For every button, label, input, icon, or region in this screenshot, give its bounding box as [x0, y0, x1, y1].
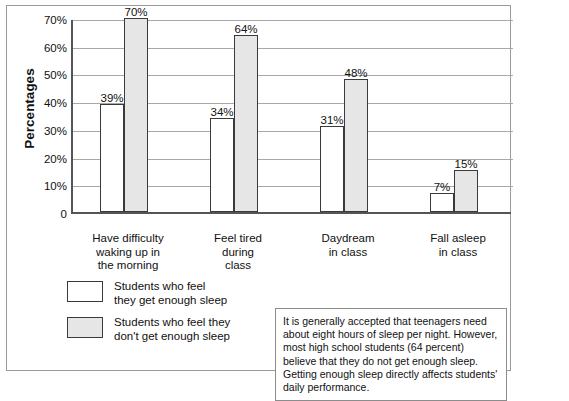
- note-callout-box: It is generally accepted that teenagers …: [275, 308, 507, 401]
- bar-value-label: 64%: [234, 23, 257, 35]
- bar-value-label: 34%: [210, 106, 233, 118]
- y-tick-label: 30%: [44, 125, 67, 137]
- bar: 15%: [454, 170, 478, 212]
- y-tick-label: 60%: [44, 42, 67, 54]
- y-tick-label: 40%: [44, 97, 67, 109]
- bar: 31%: [320, 126, 344, 212]
- legend-label-enough-sleep: Students who feel they get enough sleep: [114, 280, 227, 307]
- legend-swatch-shaded: [67, 317, 103, 338]
- x-category-label: Feel tired during class: [183, 232, 293, 273]
- bar: 64%: [234, 35, 258, 212]
- bar-value-label: 48%: [344, 67, 367, 79]
- legend-label-not-enough-sleep: Students who feel they don't get enough …: [114, 316, 230, 343]
- figure-frame: Percentages 010%20%30%40%50%60%70%39%70%…: [6, 5, 511, 371]
- bar-value-label: 31%: [320, 114, 343, 126]
- plot-area: 010%20%30%40%50%60%70%39%70%Have difficu…: [71, 20, 511, 214]
- legend-swatch-light: [67, 281, 103, 302]
- bar: 34%: [210, 118, 234, 212]
- bar-value-label: 70%: [124, 6, 147, 18]
- legend-item-enough-sleep: Students who feel they get enough sleep: [67, 280, 230, 307]
- y-tick-label: 70%: [44, 14, 67, 26]
- x-category-label: Fall asleep in class: [403, 232, 513, 259]
- bar-value-label: 39%: [100, 92, 123, 104]
- y-tick-label: 0: [61, 208, 67, 220]
- y-tick-label: 10%: [44, 180, 67, 192]
- x-category-label: Have difficulty waking up in the morning: [73, 232, 183, 273]
- bar: 7%: [430, 193, 454, 212]
- legend-item-not-enough-sleep: Students who feel they don't get enough …: [67, 316, 230, 343]
- y-axis-title: Percentages: [22, 49, 37, 169]
- bar-value-label: 15%: [454, 158, 477, 170]
- bar: 70%: [124, 18, 148, 212]
- bar: 39%: [100, 104, 124, 212]
- y-tick-label: 50%: [44, 69, 67, 81]
- bar: 48%: [344, 79, 368, 212]
- bar-value-label: 7%: [434, 181, 451, 193]
- x-category-label: Daydream in class: [293, 232, 403, 259]
- y-tick-label: 20%: [44, 153, 67, 165]
- chart-legend: Students who feel they get enough sleep …: [67, 280, 230, 352]
